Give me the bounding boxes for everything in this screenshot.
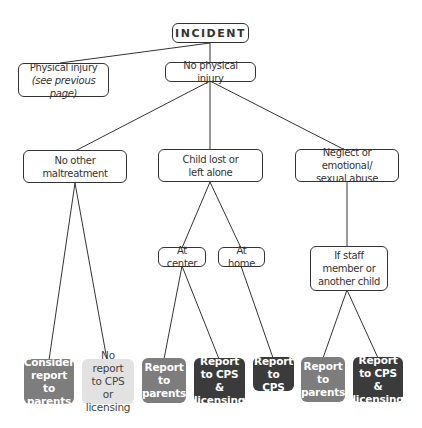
outcome-label-line: No report <box>86 349 130 375</box>
node-label-line: member or <box>323 262 376 275</box>
outcome-label-line: Report <box>359 354 398 367</box>
node-label-line: Child lost or <box>183 153 239 166</box>
at-home-node: At home <box>218 247 265 267</box>
outcome-no-report: No report to CPS or licensing <box>82 359 134 404</box>
child-lost-node: Child lost or left alone <box>158 149 263 182</box>
node-label-line: If staff <box>334 249 364 262</box>
physical-injury-node: Physical injury (see previous page) <box>18 63 109 97</box>
outcome-label-line: parents <box>301 386 345 399</box>
no-physical-injury-node: No physical injury <box>165 62 256 82</box>
outcome-label-line: parents <box>142 387 186 400</box>
outcome-report-to-parents-center: Report to parents <box>142 358 186 403</box>
node-label-line: Neglect or emotional/ <box>300 146 394 172</box>
outcome-label-line: Report <box>304 360 343 373</box>
node-label-line: left alone <box>189 166 233 179</box>
outcome-label-line: Report <box>200 355 239 368</box>
outcome-label-line: report to <box>28 369 70 395</box>
physical-injury-label: Physical injury <box>30 61 98 74</box>
node-label-line: No other <box>54 154 95 167</box>
outcome-label-line: Report <box>254 355 293 368</box>
outcome-label-line: to CPS & <box>198 368 241 394</box>
outcome-label-line: to <box>158 374 170 387</box>
outcome-report-cps-licensing-staff: Report to CPS & licensing <box>353 357 403 402</box>
staff-or-child-node: If staff member or another child <box>310 246 388 291</box>
outcome-label-line: to CPS or <box>86 375 130 401</box>
neglect-abuse-node: Neglect or emotional/ sexual abuse <box>295 149 399 182</box>
see-previous-page-note: (see previous page) <box>23 74 104 100</box>
no-other-maltreatment-node: No other maltreatment <box>23 150 127 183</box>
outcome-label-line: Report <box>145 361 184 374</box>
incident-node: INCIDENT <box>172 23 249 43</box>
outcome-label-line: to <box>317 373 329 386</box>
outcome-report-cps-licensing-center: Report to CPS & licensing <box>194 358 245 403</box>
outcome-label-line: parents <box>27 395 71 408</box>
outcome-label-line: Consider <box>24 356 74 369</box>
outcome-report-to-cps-home: Report to CPS <box>253 357 294 391</box>
outcome-label-line: licensing <box>352 393 403 406</box>
at-center-node: At center <box>158 247 206 267</box>
node-label-line: another child <box>318 275 380 288</box>
outcome-label-line: licensing <box>86 401 131 414</box>
outcome-consider-report-to-parents: Consider report to parents <box>24 359 74 404</box>
node-label-line: sexual abuse <box>316 172 378 185</box>
outcome-label-line: to CPS <box>257 368 290 394</box>
outcome-label-line: licensing <box>194 394 245 407</box>
node-label-line: maltreatment <box>42 167 107 180</box>
outcome-label-line: to CPS & <box>357 367 399 393</box>
outcome-report-to-parents-staff: Report to parents <box>301 357 345 402</box>
